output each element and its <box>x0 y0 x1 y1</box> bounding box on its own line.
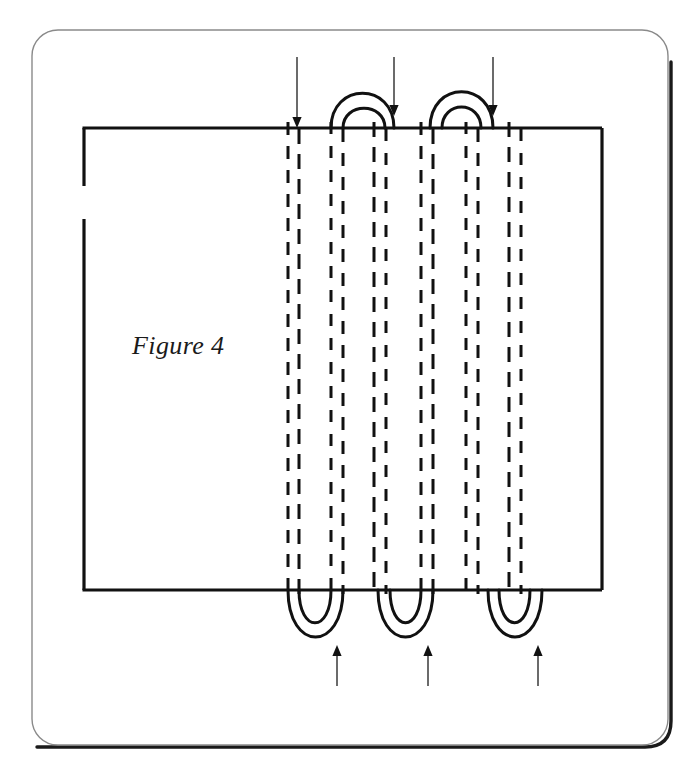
figure-canvas: Figure 4 <box>0 0 700 772</box>
card-outline <box>32 30 668 745</box>
figure-illustration: Figure 4 <box>0 0 700 772</box>
page-card <box>32 30 668 745</box>
figure-caption: Figure 4 <box>131 331 225 360</box>
